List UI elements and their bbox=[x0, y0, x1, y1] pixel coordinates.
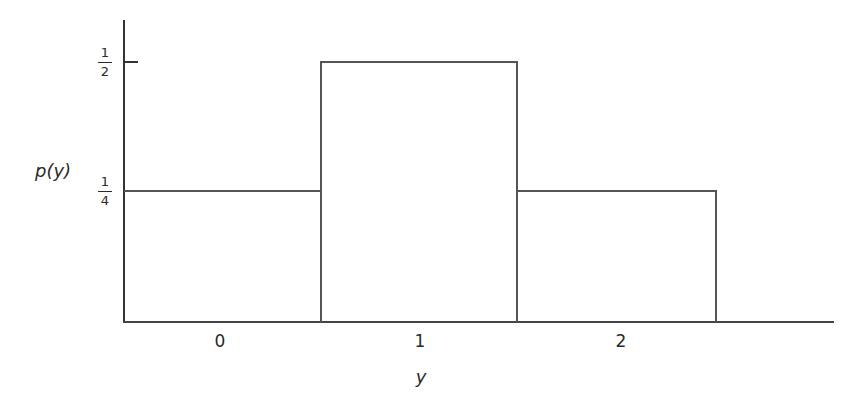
x-tick-label-0: 0 bbox=[215, 331, 226, 351]
fraction-bar bbox=[98, 191, 112, 192]
x-tick-label-1: 1 bbox=[415, 331, 426, 351]
numerator: 1 bbox=[101, 46, 109, 60]
denominator: 4 bbox=[101, 194, 109, 208]
bar-2 bbox=[517, 191, 716, 322]
bar-1 bbox=[321, 62, 517, 322]
y-axis-label: p(y) bbox=[35, 160, 71, 181]
denominator: 2 bbox=[101, 65, 109, 79]
bar-0 bbox=[124, 191, 321, 322]
x-axis-label: y bbox=[416, 366, 427, 387]
y-tick-label-half: 1 2 bbox=[98, 46, 112, 79]
y-tick-label-quarter: 1 4 bbox=[98, 175, 112, 208]
numerator: 1 bbox=[101, 175, 109, 189]
x-tick-label-2: 2 bbox=[616, 331, 627, 351]
chart-canvas bbox=[0, 0, 866, 411]
fraction-bar bbox=[98, 62, 112, 63]
